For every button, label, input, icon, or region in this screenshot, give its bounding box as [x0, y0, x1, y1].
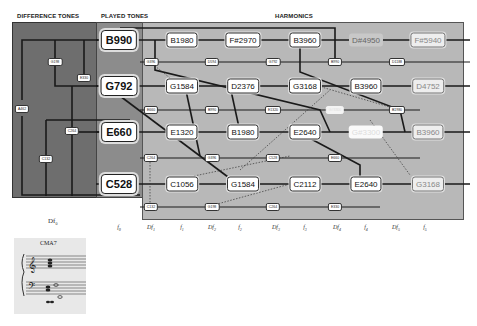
axis-label-f0: f0 — [117, 224, 121, 232]
svg-text:𝄢: 𝄢 — [28, 281, 35, 294]
harmonic-b3960: B3960 — [289, 33, 320, 48]
axis-label-df3: Df3 — [272, 224, 280, 232]
tag-e330-r4: E330 — [328, 203, 342, 211]
tag-d594: D594 — [205, 58, 219, 66]
harmonic-c1056: C1056 — [166, 177, 198, 192]
tag-c264-r3: C264 — [144, 154, 158, 162]
tag-e330: E330 — [77, 74, 91, 82]
svg-text:𝄞: 𝄞 — [28, 256, 36, 273]
harmonic-c2112: C2112 — [290, 177, 321, 192]
tag-g198-r4: G198 — [205, 203, 220, 211]
tag-c132: C132 — [39, 155, 53, 163]
tag-d1188: D1188 — [389, 58, 405, 66]
tag-c528: C528 — [266, 154, 280, 162]
harmonic-e2640-c: E2640 — [350, 177, 381, 192]
harmonic-fs2970: F#2970 — [225, 33, 260, 48]
harmonic-b1980-e: B1980 — [227, 125, 258, 140]
tag-e1320: E1320 — [265, 106, 281, 114]
harmonic-d4752: D4752 — [412, 79, 444, 94]
chord-name: CMA7 — [40, 240, 57, 246]
tag-g396: G396 — [144, 58, 159, 66]
tag-g792: G792 — [266, 58, 281, 66]
axis-label-df4: Df4 — [333, 224, 341, 232]
tag-a462: A462 — [15, 105, 29, 113]
tag-b990-2: B990 — [205, 106, 219, 114]
harmonic-g1584-c: G1584 — [227, 177, 259, 192]
axis-label-f2: f2 — [238, 224, 242, 232]
played-tone-c528: C528 — [101, 174, 137, 194]
harmonic-e1320: E1320 — [166, 125, 197, 140]
harmonic-b3960-g: B3960 — [350, 79, 381, 94]
harmonic-b3960-e: B3960 — [412, 125, 443, 140]
axis-label-f5: f5 — [423, 224, 427, 232]
axis-label-df2: Df2 — [208, 224, 216, 232]
tag-c264: C264 — [65, 127, 79, 135]
tag-gs3300: G#3300 — [326, 106, 344, 114]
score-notation: 𝄞 𝄢 — [14, 238, 86, 314]
tag-c264-r4: C264 — [266, 203, 280, 211]
tag-g198: G198 — [48, 58, 63, 66]
harmonic-d2376: D2376 — [227, 79, 259, 94]
axis-label-df1: Df1 — [147, 224, 155, 232]
harmonic-g3168: G3168 — [289, 79, 321, 94]
staff-icon: 𝄞 𝄢 — [14, 238, 86, 314]
harmonic-e2640: E2640 — [289, 125, 320, 140]
tag-c132-r4: C132 — [144, 203, 158, 211]
played-tone-e660: E660 — [101, 122, 137, 142]
harmonic-b1980: B1980 — [166, 33, 197, 48]
axis-label-f1: f1 — [180, 224, 184, 232]
score-label: Df0 — [48, 217, 57, 226]
tag-b990: B990 — [328, 58, 342, 66]
tag-e660-r3: E660 — [328, 154, 342, 162]
axis-label-df5: Df5 — [392, 224, 400, 232]
harmonic-g1584: G1584 — [166, 79, 198, 94]
harmonic-fs5940: F#5940 — [410, 33, 445, 48]
harmonic-ds4950: D#4950 — [349, 34, 383, 47]
tag-e660: E660 — [144, 106, 158, 114]
played-tone-g792: G792 — [101, 76, 138, 96]
axis-label-f3: f3 — [303, 224, 307, 232]
tag-b1980: B1980 — [389, 106, 405, 114]
harmonic-g3168-c: G3168 — [412, 177, 444, 192]
harmonic-gs3300: G#3300 — [349, 126, 383, 139]
tag-g396-r3: G396 — [205, 154, 220, 162]
played-tone-b990: B990 — [101, 30, 137, 50]
axis-label-f4: f4 — [364, 224, 368, 232]
